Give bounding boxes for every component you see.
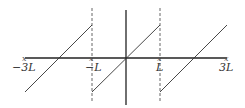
diagram-canvas: x x x x −3L −L L 3L (0, 0, 245, 108)
label-3L: 3L (219, 61, 233, 74)
sawtooth-diagram: x x x x −3L −L L 3L (0, 0, 245, 108)
label-neg-L: −L (85, 61, 102, 74)
label-neg-3L: −3L (12, 61, 36, 74)
label-L: L (155, 61, 163, 74)
